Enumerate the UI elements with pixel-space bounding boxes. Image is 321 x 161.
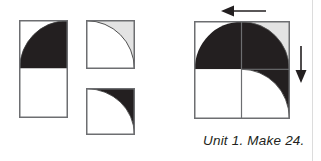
piece-dark-square	[86, 88, 135, 135]
page-edge-divider	[312, 0, 313, 161]
piece-light-square	[86, 20, 135, 69]
assembly-quadrant-bottom-right	[242, 69, 290, 118]
arrow-left-icon	[221, 4, 267, 18]
arrow-left-head	[221, 6, 234, 17]
quadrant-bottom-left-body	[195, 69, 242, 118]
assembly-quadrant-top-right	[242, 22, 290, 70]
figure-canvas: Unit 1. Make 24.	[0, 0, 321, 161]
figure-caption: Unit 1. Make 24.	[203, 133, 305, 148]
assembly-quadrant-bottom-left	[195, 69, 242, 118]
piece-tall-rectangle	[19, 20, 68, 118]
arrow-down-icon	[294, 46, 308, 84]
arrow-down-head	[296, 70, 307, 83]
assembled-quilt-block	[194, 21, 290, 119]
